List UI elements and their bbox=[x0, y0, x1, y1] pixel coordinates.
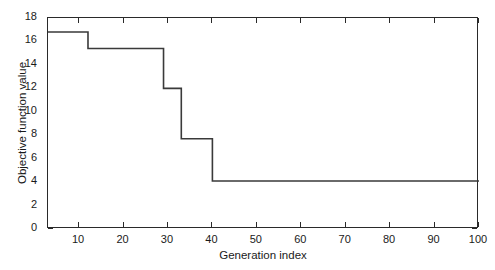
x-tick-mark-top bbox=[389, 18, 390, 23]
plot-area bbox=[47, 17, 478, 228]
x-tick-label: 60 bbox=[280, 234, 320, 245]
x-axis-label: Generation index bbox=[47, 248, 479, 262]
x-tick-label: 70 bbox=[325, 234, 365, 245]
x-tick-mark bbox=[211, 222, 212, 227]
x-tick-mark bbox=[256, 222, 257, 227]
x-tick-label: 10 bbox=[58, 234, 98, 245]
y-tick-label: 2 bbox=[3, 199, 37, 210]
y-tick-label: 16 bbox=[3, 34, 37, 45]
x-tick-mark-top bbox=[78, 18, 79, 23]
y-tick-label: 18 bbox=[3, 11, 37, 22]
x-tick-label: 50 bbox=[236, 234, 276, 245]
x-tick-mark-top bbox=[434, 18, 435, 23]
x-tick-mark bbox=[167, 222, 168, 227]
x-tick-mark bbox=[78, 222, 79, 227]
y-tick-label: 6 bbox=[3, 152, 37, 163]
series-line-best-objective bbox=[48, 32, 479, 181]
figure-chart: Objective function value 024681012141618… bbox=[0, 0, 495, 270]
x-tick-mark bbox=[478, 222, 479, 227]
y-tick-label: 14 bbox=[3, 58, 37, 69]
x-tick-label: 30 bbox=[147, 234, 187, 245]
x-tick-mark-top bbox=[211, 18, 212, 23]
y-tick-label: 12 bbox=[3, 81, 37, 92]
x-tick-label: 100 bbox=[458, 234, 495, 245]
x-tick-label: 20 bbox=[103, 234, 143, 245]
x-tick-mark-top bbox=[478, 18, 479, 23]
x-tick-mark bbox=[300, 222, 301, 227]
x-tick-mark-top bbox=[256, 18, 257, 23]
y-tick-label: 8 bbox=[3, 128, 37, 139]
x-tick-mark bbox=[345, 222, 346, 227]
y-tick-label: 10 bbox=[3, 105, 37, 116]
data-line-svg bbox=[48, 18, 479, 229]
x-tick-mark bbox=[434, 222, 435, 227]
x-tick-label: 90 bbox=[414, 234, 454, 245]
x-tick-mark bbox=[123, 222, 124, 227]
x-tick-mark-top bbox=[345, 18, 346, 23]
x-tick-mark-top bbox=[123, 18, 124, 23]
x-tick-mark bbox=[389, 222, 390, 227]
y-tick-label: 4 bbox=[3, 175, 37, 186]
x-tick-mark-top bbox=[167, 18, 168, 23]
x-tick-label: 40 bbox=[191, 234, 231, 245]
x-tick-mark-top bbox=[300, 18, 301, 23]
x-tick-label: 80 bbox=[369, 234, 409, 245]
y-tick-label: 0 bbox=[3, 222, 37, 233]
